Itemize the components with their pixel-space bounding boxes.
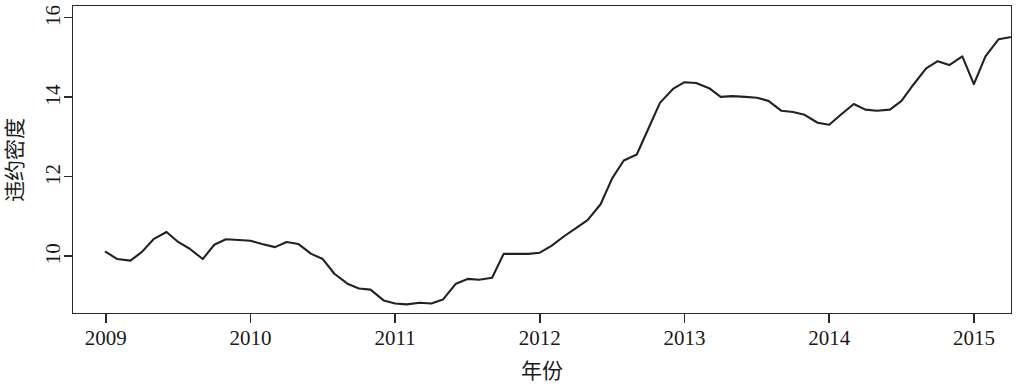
- plot-frame: [73, 6, 1012, 314]
- x-tick-label-2009: 2009: [85, 326, 127, 350]
- y-axis-tick-labels: 10121416: [41, 5, 65, 264]
- y-tick-label-14: 14: [41, 84, 65, 106]
- x-tick-label-2013: 2013: [664, 326, 706, 350]
- y-tick-label-12: 12: [41, 164, 65, 185]
- x-tick-label-2011: 2011: [375, 326, 416, 350]
- y-axis-ticks: [64, 17, 73, 255]
- x-axis-title: 年份: [521, 359, 563, 383]
- x-tick-label-2014: 2014: [808, 326, 851, 350]
- y-tick-label-10: 10: [41, 243, 65, 264]
- x-tick-label-2015: 2015: [953, 326, 995, 350]
- x-tick-label-2010: 2010: [229, 326, 271, 350]
- line-chart-svg: 10121416 2009201020112012201320142015 年份…: [0, 0, 1023, 389]
- x-tick-label-2012: 2012: [519, 326, 561, 350]
- chart-figure: 10121416 2009201020112012201320142015 年份…: [0, 0, 1023, 389]
- y-tick-label-16: 16: [41, 5, 65, 26]
- x-axis-ticks: [106, 314, 974, 323]
- y-axis-title: 违约密度: [3, 118, 27, 202]
- x-axis-tick-labels: 2009201020112012201320142015: [85, 326, 995, 350]
- series-line-default-density: [106, 37, 1010, 304]
